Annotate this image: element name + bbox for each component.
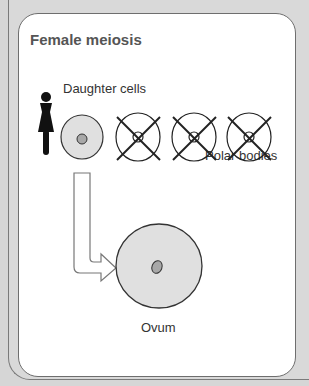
- polar-body-crossed-icon: [227, 113, 271, 161]
- polar-body-crossed-icon: [172, 113, 216, 161]
- female-symbol-icon: [38, 92, 54, 155]
- arrow-icon: [74, 173, 116, 281]
- polar-body-crossed-icon: [116, 113, 160, 161]
- cell-icon: [61, 115, 103, 159]
- ovum-icon: [116, 224, 202, 308]
- meiosis-diagram: [0, 0, 309, 386]
